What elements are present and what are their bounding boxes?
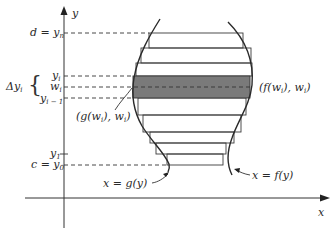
label-yi-minus-1: yi − 1	[40, 93, 63, 106]
label-g-point: (g(wi), wi)	[76, 111, 131, 124]
label-f-point: (f(wi), wi)	[259, 82, 311, 95]
strip	[141, 48, 251, 63]
label-curve-g: x = g(y)	[103, 178, 147, 189]
strip	[150, 132, 234, 143]
brace-icon: {	[28, 74, 42, 96]
label-c-y0: c = y0	[31, 159, 64, 172]
strip	[156, 143, 226, 154]
strip-1	[167, 154, 223, 165]
label-delta-yi: Δyi	[6, 81, 22, 94]
g-point-pointer	[115, 88, 132, 110]
label-curve-f: x = f(y)	[252, 170, 293, 181]
strip-n	[149, 33, 243, 48]
strip	[136, 63, 252, 76]
label-d-yn: d = yn	[30, 27, 64, 40]
y-axis-label: y	[72, 8, 78, 19]
curve-f	[228, 22, 252, 175]
x-axis-label: x	[318, 207, 324, 218]
strip	[143, 115, 241, 132]
approximating-rectangles	[136, 33, 252, 165]
f-curve-pointer-arrowhead-icon	[234, 168, 240, 173]
x-axis-arrow-icon	[320, 195, 330, 202]
strip	[138, 98, 246, 115]
y-axis-arrow-icon	[61, 6, 68, 15]
